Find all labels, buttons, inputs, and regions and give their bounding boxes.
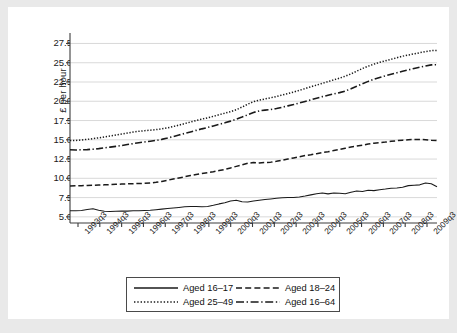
graph-card: £ per hour 5.07.510.012.515.017.520.022.… (8, 7, 449, 319)
chart-screenshot: £ per hour 5.07.510.012.515.017.520.022.… (0, 0, 457, 333)
legend-row: Aged 25–49 Aged 16–64 (131, 295, 335, 309)
legend-item-aged-18-24: Aged 18–24 (233, 282, 335, 294)
legend-label: Aged 25–49 (183, 297, 233, 307)
legend-item-aged-16-64: Aged 16–64 (233, 296, 335, 308)
legend-label: Aged 16–64 (285, 297, 335, 307)
legend-key-dashdot (235, 296, 281, 308)
legend: Aged 16–17 Aged 18–24 Aged 25–49 Aged 16… (126, 277, 340, 312)
legend-label: Aged 16–17 (183, 283, 233, 293)
legend-item-aged-16-17: Aged 16–17 (131, 282, 233, 294)
legend-item-aged-25-49: Aged 25–49 (131, 296, 233, 308)
legend-key-dotted (133, 296, 179, 308)
x-axis-tick-labels: 1993q31994q31995q31996q31997q31998q31999… (8, 7, 457, 67)
legend-key-solid (133, 282, 179, 294)
legend-key-dashed (235, 282, 281, 294)
legend-label: Aged 18–24 (285, 283, 335, 293)
legend-row: Aged 16–17 Aged 18–24 (131, 281, 335, 295)
